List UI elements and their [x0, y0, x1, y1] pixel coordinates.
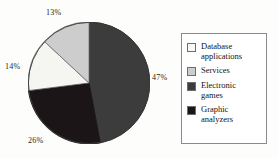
legend-swatch-database-applications — [187, 43, 196, 52]
pie-slice-graphic-analyzers[interactable] — [28, 83, 100, 144]
legend-label-services: Services — [201, 65, 230, 75]
chart-canvas: 13% 14% 26% 47% Database applications Se… — [0, 0, 278, 158]
pie-label-database-applications: 14% — [5, 62, 20, 71]
legend-swatch-graphic-analyzers — [187, 106, 196, 115]
legend-swatch-services — [187, 67, 196, 76]
pie-chart-svg — [28, 22, 150, 144]
legend-label-database-applications: Database applications — [201, 41, 242, 61]
pie-label-graphic-analyzers: 26% — [28, 136, 43, 145]
pie-slice-electronic-games[interactable] — [89, 22, 150, 143]
pie-label-electronic-games: 47% — [152, 73, 167, 82]
pie-chart — [28, 22, 150, 144]
legend-label-electronic-games: Electronic games — [201, 80, 236, 100]
legend-label-graphic-analyzers: Graphic analyzers — [201, 104, 233, 124]
legend-items: Database applications Services Electroni… — [182, 34, 266, 124]
pie-label-services: 13% — [46, 8, 61, 17]
legend-item-electronic-games[interactable]: Electronic games — [187, 80, 266, 100]
legend-item-services[interactable]: Services — [187, 65, 266, 76]
legend-swatch-electronic-games — [187, 82, 196, 91]
legend-item-graphic-analyzers[interactable]: Graphic analyzers — [187, 104, 266, 124]
legend: Database applications Services Electroni… — [181, 33, 267, 144]
legend-item-database-applications[interactable]: Database applications — [187, 41, 266, 61]
